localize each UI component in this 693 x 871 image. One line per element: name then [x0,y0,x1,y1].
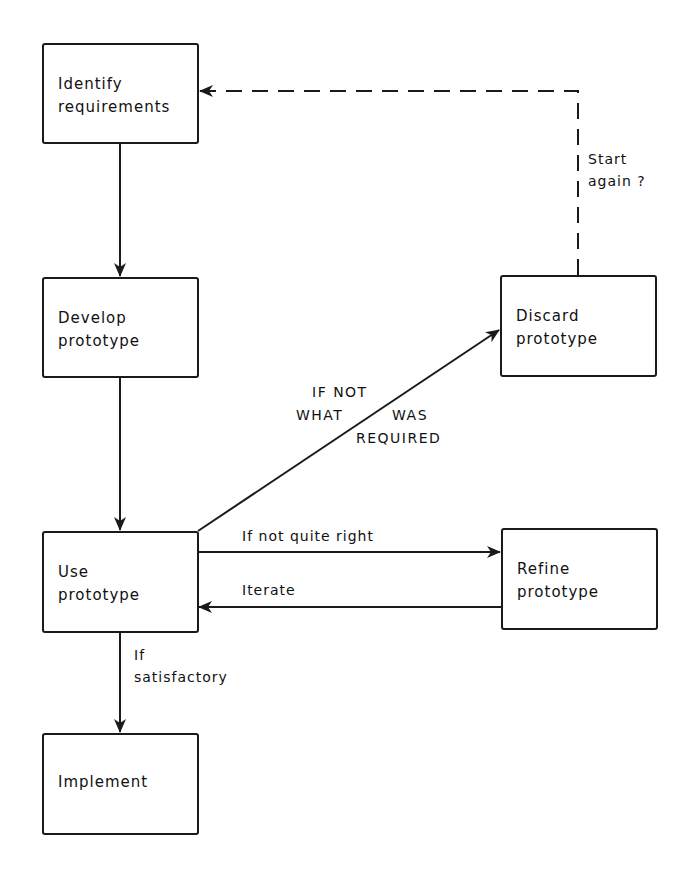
label-if-not-quite-right: If not quite right [242,525,374,547]
label-if-not: IF NOT [312,381,368,403]
node-label: Refine prototype [517,558,599,604]
node-label: Use prototype [58,561,140,607]
label-iterate: Iterate [242,579,296,601]
node-label: Develop prototype [58,307,140,353]
node-label: Identify requirements [58,73,170,119]
node-refine-prototype: Refine prototype [501,528,658,630]
dashed-arrow-discard-to-identify [200,91,578,275]
node-implement: Implement [42,733,199,835]
node-discard-prototype: Discard prototype [500,275,657,377]
arrow-use-to-discard [198,330,499,531]
label-start-again: Start again ? [588,148,646,192]
label-was: WAS [392,404,428,426]
node-label: Discard prototype [516,305,598,351]
label-required: REQUIRED [356,427,441,449]
node-identify-requirements: Identify requirements [42,43,199,144]
node-label: Implement [58,771,148,794]
node-use-prototype: Use prototype [42,531,199,633]
node-develop-prototype: Develop prototype [42,277,199,378]
label-what: WHAT [296,404,343,426]
label-if-satisfactory: If satisfactory [134,644,228,688]
